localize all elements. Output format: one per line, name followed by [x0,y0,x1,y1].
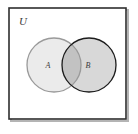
universal-set-label: U [19,15,28,27]
set-b-label: B [86,61,91,70]
venn-diagram-figure: U A B [0,0,138,134]
set-a-label: A [45,61,51,70]
venn-diagram-canvas: U A B [0,0,138,134]
